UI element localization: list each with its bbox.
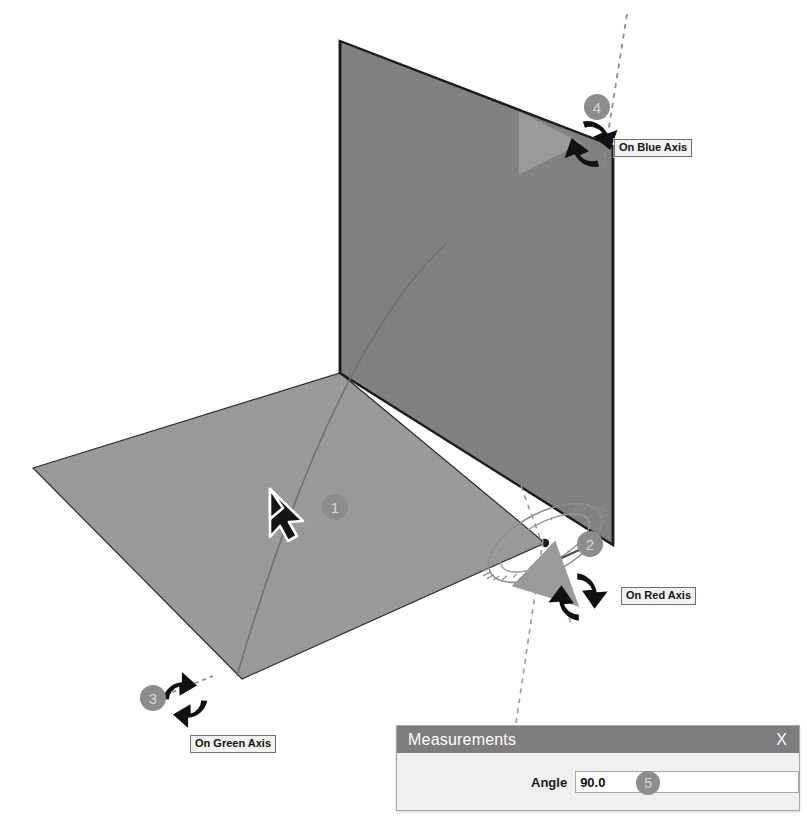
axis-label-blue: On Blue Axis <box>614 139 692 157</box>
axis-label-red: On Red Axis <box>621 587 696 605</box>
close-icon[interactable]: X <box>774 732 789 748</box>
callout-badge-2: 2 <box>577 531 603 557</box>
rotate-icon-red-axis[interactable] <box>546 567 611 627</box>
angle-label: Angle <box>531 775 567 790</box>
angle-input-value: 90.0 <box>576 776 605 789</box>
3d-scene[interactable] <box>0 0 807 834</box>
measurements-titlebar[interactable]: Measurements X <box>397 726 799 753</box>
angle-input[interactable]: 90.0 5 <box>575 771 799 793</box>
callout-badge-5: 5 <box>636 771 660 795</box>
callout-badge-4: 4 <box>584 94 610 120</box>
measurements-body: Angle 90.0 5 <box>397 753 799 811</box>
measurements-title: Measurements <box>408 732 516 748</box>
axis-label-green: On Green Axis <box>190 735 276 753</box>
viewport-canvas[interactable]: 1 2 3 4 On Blue Axis On Red Axis On Gree… <box>0 0 807 834</box>
callout-badge-1: 1 <box>322 494 348 520</box>
callout-badge-3: 3 <box>140 685 166 711</box>
measurements-dialog[interactable]: Measurements X Angle 90.0 5 <box>396 725 800 811</box>
